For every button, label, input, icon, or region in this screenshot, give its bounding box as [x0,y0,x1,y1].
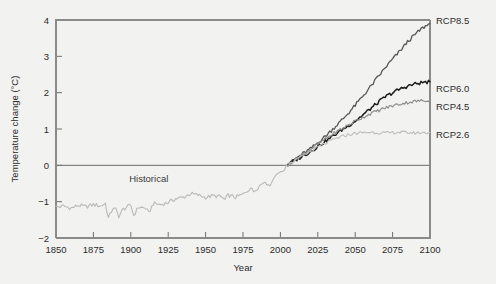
y-tick-label: 0 [44,160,49,171]
y-tick-label: −1 [38,196,49,207]
x-tick-label: 2000 [270,244,291,255]
x-tick-label: 2025 [307,244,328,255]
y-tick-label: 2 [44,87,49,98]
series-label-rcp8-5: RCP8.5 [436,15,469,26]
y-tick-label: −2 [38,233,49,244]
series-label-rcp2-6: RCP2.6 [436,129,469,140]
y-tick-label: 1 [44,124,49,135]
y-tick-label: 4 [44,15,49,26]
x-tick-label: 1900 [120,244,141,255]
x-tick-label: 1850 [45,244,66,255]
x-tick-label: 2075 [382,244,403,255]
series-label-rcp4-5: RCP4.5 [436,101,469,112]
y-axis-title: Temperature change (°C) [9,76,20,183]
historical-annotation: Historical [129,173,168,184]
climate-projection-chart: −2−1012341850187519001925195019752000202… [0,0,496,284]
x-tick-label: 1875 [83,244,104,255]
x-tick-label: 1975 [232,244,253,255]
y-tick-label: 3 [44,51,49,62]
x-tick-label: 1925 [158,244,179,255]
x-tick-label: 1950 [195,244,216,255]
series-label-rcp6-0: RCP6.0 [436,83,469,94]
x-tick-label: 2050 [345,244,366,255]
x-axis-title: Year [233,262,252,273]
chart-canvas: −2−1012341850187519001925195019752000202… [0,0,496,284]
chart-background [0,0,496,284]
x-tick-label: 2100 [419,244,440,255]
